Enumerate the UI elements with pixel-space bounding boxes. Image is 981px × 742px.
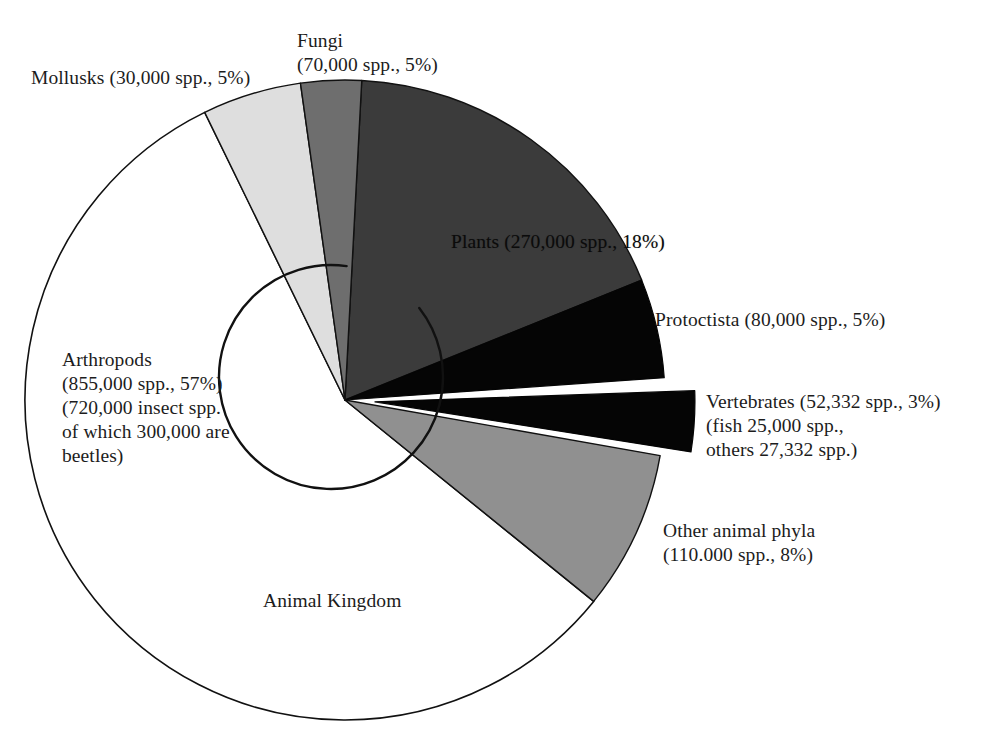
pie-chart-figure: Fungi (70,000 spp., 5%) Mollusks (30,000…: [0, 0, 981, 742]
slice-label-protoctista: Protoctista (80,000 spp., 5%): [655, 308, 885, 332]
slice-label-fungi: Fungi (70,000 spp., 5%): [297, 29, 438, 77]
annotation-animal-kingdom: Animal Kingdom: [263, 589, 401, 613]
slice-label-other-animal-phyla: Other animal phyla (110.000 spp., 8%): [663, 519, 815, 567]
slice-label-plants: Plants (270,000 spp., 18%): [451, 230, 665, 254]
slice-label-mollusks: Mollusks (30,000 spp., 5%): [31, 66, 250, 90]
slice-label-vertebrates: Vertebrates (52,332 spp., 3%) (fish 25,0…: [706, 390, 941, 462]
slice-label-arthropods: Arthropods (855,000 spp., 57%) (720,000 …: [62, 348, 230, 468]
